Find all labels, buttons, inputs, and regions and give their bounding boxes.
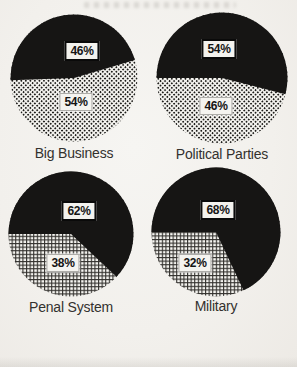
pie-chart-military [151, 167, 281, 297]
pie-title: Big Business [0, 145, 150, 161]
pie-percent-label-black: 46% [64, 41, 99, 61]
pie-chart-big-business [10, 14, 138, 142]
pie-percent-label-pattern: 46% [199, 97, 232, 115]
pie-percent-label-black: 54% [201, 39, 236, 59]
pie-percent-label-pattern: 32% [178, 254, 211, 272]
scanned-figure-page: 46% 54% Big Business 54% 46% Political P… [0, 0, 297, 367]
pie-percent-label-pattern: 54% [59, 93, 92, 111]
pie-percent-label-black: 62% [61, 201, 96, 221]
pie-percent-label-pattern: 38% [46, 254, 79, 272]
pie-chart-penal-system [8, 171, 134, 297]
pie-title: Political Parties [144, 146, 297, 162]
scan-artifact [84, 2, 236, 8]
pie-percent-label-black: 68% [200, 200, 235, 220]
legend-key-section: KEY Reformed or Done Away With Moderate … [0, 318, 297, 360]
pie-group-political-parties: 54% 46% Political Parties [156, 12, 288, 144]
pie-group-military: 68% 32% Military [151, 167, 281, 297]
pie-group-penal-system: 62% 38% Penal System [8, 171, 134, 297]
pie-title: Military [139, 298, 293, 314]
pie-chart-political-parties [156, 12, 288, 144]
pie-title: Penal System [0, 299, 146, 315]
pie-group-big-business: 46% 54% Big Business [10, 14, 138, 142]
